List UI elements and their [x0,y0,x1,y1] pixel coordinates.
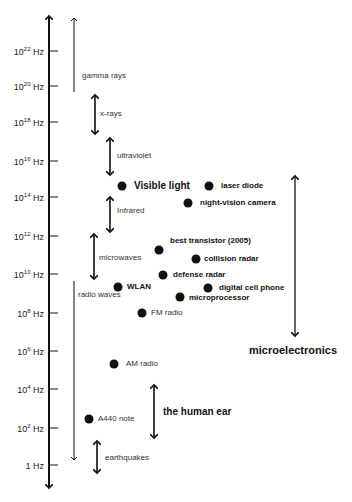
tick-label-1e14: 1014 Hz [0,192,44,203]
collision-radar-dot [192,255,201,264]
tick-label-1e16: 1016 Hz [0,156,44,167]
tick-label-1e2: 102 Hz [0,423,44,434]
infrared-label: Infrared [117,207,145,215]
a440-note-label: A440 note [98,415,134,423]
ultraviolet-label: ultraviolet [117,152,151,160]
fm-radio-dot [138,309,147,318]
am-radio-dot [110,360,119,369]
tick-label-1e12: 1012 Hz [0,231,44,242]
radio-waves-label: radio waves [78,291,121,299]
tick-label-1e18: 1018 Hz [0,117,44,128]
visible-light-dot [118,182,127,191]
defense-radar-dot [159,271,168,280]
digital-cell-phone-label: digital cell phone [219,284,284,292]
wlan-dot [114,283,123,292]
visible-light-label: Visible light [134,181,190,191]
microelectronics-label: microelectronics [249,345,337,356]
night-vision-camera-label: night-vision camera [200,199,276,207]
night-vision-camera-dot [184,199,193,208]
collision-radar-label: collision radar [204,255,259,263]
earthquakes-label: earthquakes [105,454,149,462]
x-rays-label: x-rays [100,110,122,118]
spectrum-diagram-lines [0,0,352,502]
tick-label-1e10: 1010 Hz [0,269,44,280]
laser-diode-dot [205,182,214,191]
tick-label-1e20: 1020 Hz [0,81,44,92]
microprocessor-dot [176,293,185,302]
frequency-axis [49,16,58,488]
am-radio-label: AM radio [126,360,158,368]
fm-radio-label: FM radio [151,309,183,317]
tick-label-1e6: 106 Hz [0,346,44,357]
wlan-label: WLAN [127,283,151,291]
tick-label-1e8: 108 Hz [0,308,44,319]
human-ear-label: the human ear [163,407,231,417]
microprocessor-label: microprocessor [189,294,249,302]
best-transistor-label: best transistor (2005) [170,237,251,245]
tick-label-1: 1 Hz [0,460,44,471]
defense-radar-label: defense radar [173,271,225,279]
best-transistor-dot [155,246,164,255]
gamma-rays-label: gamma rays [82,72,126,80]
laser-diode-label: laser diode [221,182,263,190]
tick-label-1e22: 1022 Hz [0,46,44,57]
tick-label-1e4: 104 Hz [0,384,44,395]
microwaves-label: microwaves [99,254,141,262]
digital-cell-phone-dot [204,284,213,293]
a440-note-dot [85,415,94,424]
